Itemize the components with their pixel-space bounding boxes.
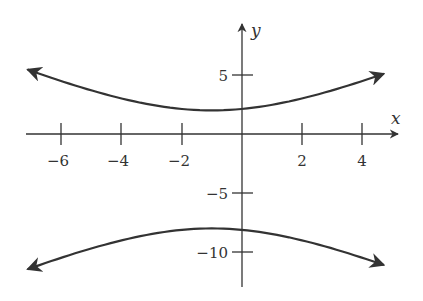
- svg-text:−6: −6: [47, 152, 69, 170]
- upper-branch-curve: [28, 70, 384, 111]
- svg-text:−5: −5: [206, 185, 228, 203]
- x-axis-label: x: [391, 108, 401, 128]
- svg-text:4: 4: [357, 152, 367, 170]
- y-tick-labels: 5 −5 −10: [196, 67, 228, 262]
- svg-text:−4: −4: [107, 152, 129, 170]
- svg-text:5: 5: [218, 67, 228, 85]
- svg-text:2: 2: [297, 152, 307, 170]
- y-axis-label: y: [250, 20, 261, 40]
- svg-text:−10: −10: [196, 244, 228, 262]
- x-tick-labels: −6 −4 −2 2 4: [47, 152, 367, 170]
- hyperbola-chart: x y −6 −4 −2 2 4 5 −5 −10: [0, 0, 423, 301]
- svg-text:−2: −2: [168, 152, 190, 170]
